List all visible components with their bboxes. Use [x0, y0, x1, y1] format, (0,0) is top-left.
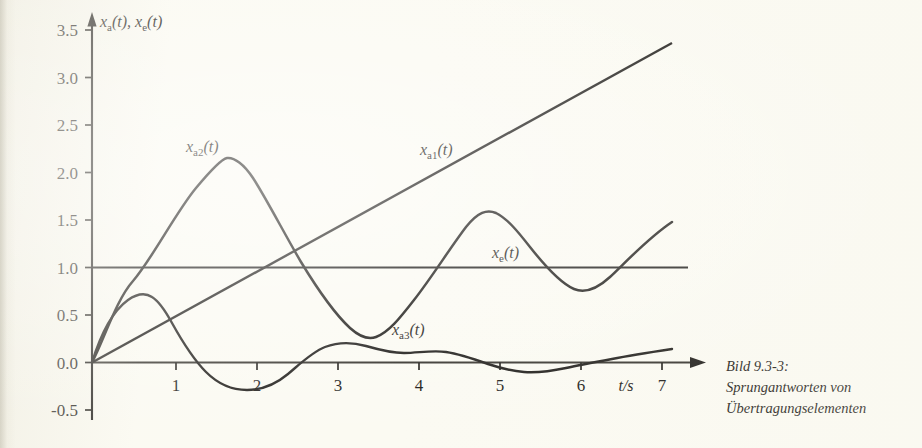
curve-label-xa1-base: x	[419, 141, 427, 158]
y-tick-label-0-5: 0.5	[57, 306, 78, 325]
y-axis-title-mid: (t),	[112, 13, 135, 31]
curve-label-xa3-sub: a3	[399, 329, 410, 341]
figure-caption: Bild 9.3-3: Sprungantworten von Übertrag…	[726, 356, 916, 419]
scanned-page: 3.5 3.0 2.5 2.0 1.5 1.0 0.5 0.0 -0.5 xa(…	[0, 0, 922, 448]
curve-xa1-line	[92, 43, 672, 363]
curve-label-xa2-tail: (t)	[204, 138, 219, 156]
y-tick-label-2-5: 2.5	[57, 116, 78, 135]
x-axis-arrow-icon	[690, 357, 706, 368]
y-tick-label-3-0: 3.0	[57, 69, 78, 88]
curve-label-xa3-tail: (t)	[410, 321, 425, 339]
x-axis-title: t/s	[618, 377, 633, 394]
y-axis-title-tail: (t)	[147, 13, 162, 31]
y-tick-label-2-0: 2.0	[57, 164, 78, 183]
x-tick-label-7: 7	[658, 376, 667, 395]
y-axis-title-x1: x	[99, 13, 107, 30]
x-tick-label-1: 1	[172, 376, 181, 395]
curve-label-xa1-sub: a1	[427, 149, 437, 161]
curve-label-xa3-base: x	[391, 321, 399, 338]
y-tick-label-0-0: 0.0	[57, 354, 78, 373]
curve-xa2-path	[92, 158, 672, 363]
figure-caption-line2: Sprungantworten von	[726, 377, 916, 398]
curve-label-xa1: xa1(t)	[419, 141, 453, 161]
y-tick-label-1-5: 1.5	[57, 211, 78, 230]
y-tick-label-1-0: 1.0	[57, 259, 78, 278]
x-tick-label-3: 3	[334, 376, 343, 395]
x-tick-label-6: 6	[577, 376, 586, 395]
x-tick-label-4: 4	[415, 376, 424, 395]
x-axis: 1 2 3 4 5 6 7 t/s	[92, 357, 706, 395]
x-tick-label-2: 2	[253, 376, 262, 395]
curve-label-xe-base: x	[491, 244, 499, 261]
x-tick-label-5: 5	[496, 376, 505, 395]
y-tick-label-3-5: 3.5	[57, 21, 78, 40]
y-tick-label-minus-0-5: -0.5	[51, 401, 78, 420]
curve-label-xa3: xa3(t)	[391, 321, 425, 341]
curve-label-xa2-sub: a2	[193, 146, 203, 158]
curve-label-xe-tail: (t)	[504, 244, 519, 262]
curve-label-xa1-tail: (t)	[438, 141, 453, 159]
y-axis-arrow-icon	[87, 12, 96, 27]
curve-xa2	[92, 158, 672, 363]
figure-caption-line3: Übertragungselementen	[726, 398, 916, 419]
y-axis-title-x2: x	[134, 13, 142, 30]
curve-xa1	[92, 43, 672, 363]
curve-label-xa2-base: x	[185, 138, 193, 155]
curve-label-xe: xe(t)	[491, 244, 519, 264]
curve-label-xa2: xa2(t)	[185, 138, 219, 158]
figure-caption-title: Bild 9.3-3:	[726, 356, 916, 377]
y-axis-title: xa(t), xe(t)	[99, 13, 162, 33]
y-axis: 3.5 3.0 2.5 2.0 1.5 1.0 0.5 0.0 -0.5 xa(…	[51, 12, 162, 420]
